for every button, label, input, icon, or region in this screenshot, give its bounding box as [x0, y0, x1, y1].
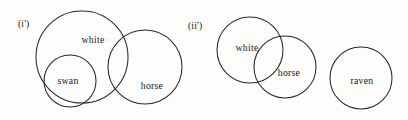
set-label-horse-panel-i: horse	[141, 80, 164, 91]
set-label-white-panel-i: white	[81, 34, 104, 45]
circle-white-panel-i	[36, 11, 128, 103]
set-label-swan-panel-i: swan	[57, 75, 78, 86]
panel-label-i-prime: (i')	[18, 19, 29, 30]
panel-i-prime: (i') white swan horse	[18, 11, 182, 107]
circle-horse-panel-i	[108, 30, 182, 104]
set-label-white-panel-ii: white	[235, 42, 258, 53]
panel-ii-prime: (ii') white horse raven	[188, 17, 392, 109]
panel-label-ii-prime: (ii')	[188, 21, 202, 32]
venn-diagram-canvas: (i') white swan horse (ii') white horse …	[0, 0, 408, 120]
set-label-raven-panel-ii: raven	[350, 75, 373, 86]
venn-diagram-figure: (i') white swan horse (ii') white horse …	[0, 0, 408, 120]
set-label-horse-panel-ii: horse	[278, 67, 301, 78]
